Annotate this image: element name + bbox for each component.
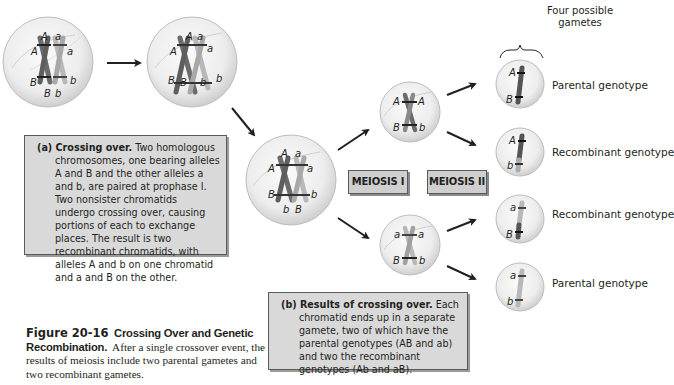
svg-text:a: a xyxy=(510,270,516,281)
cell-prophase-recombined: A a A a B b b B xyxy=(246,135,336,225)
svg-text:A: A xyxy=(169,46,177,57)
gametes-header: Four possible gametes xyxy=(530,5,630,29)
svg-text:b: b xyxy=(419,255,425,266)
meiosis-1-label: MEIOSIS I xyxy=(348,170,408,194)
gamete-1-label: Parental genotype xyxy=(552,79,648,91)
svg-text:A: A xyxy=(392,96,400,107)
brace xyxy=(500,45,543,58)
svg-text:b: b xyxy=(507,296,513,307)
svg-text:B: B xyxy=(44,88,51,99)
svg-text:B: B xyxy=(168,75,175,86)
svg-text:a: a xyxy=(55,31,61,42)
panel-b-text: Each chromatid ends up in a separate gam… xyxy=(299,299,459,375)
svg-text:a: a xyxy=(207,43,213,54)
cell-meiosis1-bottom: a a B b xyxy=(380,215,440,275)
svg-text:A: A xyxy=(280,148,288,159)
svg-text:B: B xyxy=(506,94,513,105)
arrow-down-right xyxy=(338,218,368,238)
figure-number: Figure 20-16 xyxy=(26,326,108,340)
svg-text:a: a xyxy=(67,46,73,57)
gamete-3: a B xyxy=(496,195,544,243)
cell-crossing-over: A a A a B B b b xyxy=(147,17,237,107)
gamete-4-label: Parental genotype xyxy=(552,277,648,289)
svg-text:B: B xyxy=(506,229,513,240)
svg-text:A: A xyxy=(185,31,193,42)
svg-text:b: b xyxy=(283,204,289,215)
svg-text:a: a xyxy=(418,229,424,240)
panel-a-description: (a) Crossing over. Two homologous chromo… xyxy=(24,135,227,255)
svg-text:a: a xyxy=(394,229,400,240)
svg-text:b: b xyxy=(419,122,425,133)
svg-text:b: b xyxy=(200,77,206,88)
arrow-down-right xyxy=(232,108,254,135)
figure-caption: Figure 20-16 Crossing Over and Genetic R… xyxy=(26,327,276,381)
svg-text:A: A xyxy=(40,31,48,42)
svg-text:A: A xyxy=(508,67,516,78)
svg-text:A: A xyxy=(267,163,275,174)
svg-text:B: B xyxy=(393,122,400,133)
svg-text:B: B xyxy=(393,255,400,266)
arrow-to-gamete-1 xyxy=(447,84,475,95)
svg-text:A: A xyxy=(30,46,38,57)
panel-b-description: (b) Results of crossing over. Each chrom… xyxy=(268,292,468,370)
svg-text:B: B xyxy=(268,189,275,200)
svg-text:B: B xyxy=(30,77,37,88)
svg-text:a: a xyxy=(197,31,203,42)
svg-text:b: b xyxy=(70,75,76,86)
svg-text:a: a xyxy=(295,148,301,159)
svg-text:b: b xyxy=(311,189,317,200)
svg-text:A: A xyxy=(508,135,516,146)
arrow-to-gamete-2 xyxy=(447,132,475,145)
svg-text:b: b xyxy=(507,160,513,171)
svg-text:a: a xyxy=(510,202,516,213)
svg-text:b: b xyxy=(55,88,61,99)
meiosis-2-label: MEIOSIS II xyxy=(427,170,487,194)
gamete-1: A B xyxy=(496,60,544,108)
arrow-to-gamete-3 xyxy=(447,220,475,231)
cell-meiosis1-top: A A B b xyxy=(380,82,440,142)
arrow-up-right xyxy=(338,130,368,150)
panel-a-heading: (a) Crossing over. xyxy=(37,142,132,153)
panel-a-text: Two homologous chromosomes, one bearing … xyxy=(55,142,220,283)
svg-text:a: a xyxy=(307,163,313,174)
svg-text:A: A xyxy=(417,96,425,107)
cell-prophase-1: A a A a B b B b xyxy=(3,17,93,107)
gamete-2-label: Recombinant genotype xyxy=(552,146,674,158)
svg-text:B: B xyxy=(295,204,302,215)
svg-text:b: b xyxy=(216,73,222,84)
gamete-2: A b xyxy=(496,128,544,176)
arrow-to-gamete-4 xyxy=(447,266,475,279)
gamete-3-label: Recombinant genotype xyxy=(552,208,674,220)
svg-text:B: B xyxy=(180,77,187,88)
panel-b-heading: (b) Results of crossing over. xyxy=(281,299,433,310)
gamete-4: a b xyxy=(496,263,544,311)
